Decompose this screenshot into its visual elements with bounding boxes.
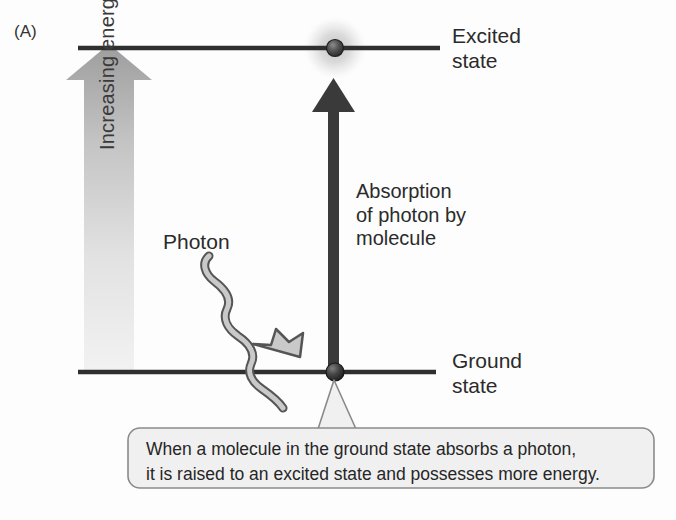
- absorption-arrow-label: Absorption of photon by molecule: [356, 180, 466, 251]
- excited-state-label-line2: state: [452, 49, 498, 72]
- absorption-label-line3: molecule: [356, 227, 436, 249]
- ground-state-label-line2: state: [452, 374, 498, 397]
- absorption-label-line2: of photon by: [356, 204, 466, 226]
- photon-wave-arrow: [205, 256, 303, 408]
- caption-text: When a molecule in the ground state abso…: [146, 437, 600, 487]
- energy-level-diagram: (A) Excited state Ground state Absorptio…: [0, 0, 676, 520]
- absorption-label-line1: Absorption: [356, 180, 452, 202]
- ground-state-molecule: [326, 363, 344, 381]
- excited-state-label: Excited state: [452, 24, 521, 74]
- ground-state-label: Ground state: [452, 349, 522, 399]
- caption-line2: it is raised to an excited state and pos…: [146, 464, 600, 484]
- excited-state-label-line1: Excited: [452, 24, 521, 47]
- increasing-energy-label: Increasing energy: [96, 0, 120, 150]
- excited-state-molecule: [327, 40, 344, 57]
- panel-label: (A): [14, 22, 37, 42]
- caption-callout-tail: [318, 380, 356, 429]
- absorption-arrow: [312, 78, 355, 367]
- caption-line1: When a molecule in the ground state abso…: [146, 439, 576, 459]
- ground-state-label-line1: Ground: [452, 349, 522, 372]
- photon-label: Photon: [163, 230, 230, 255]
